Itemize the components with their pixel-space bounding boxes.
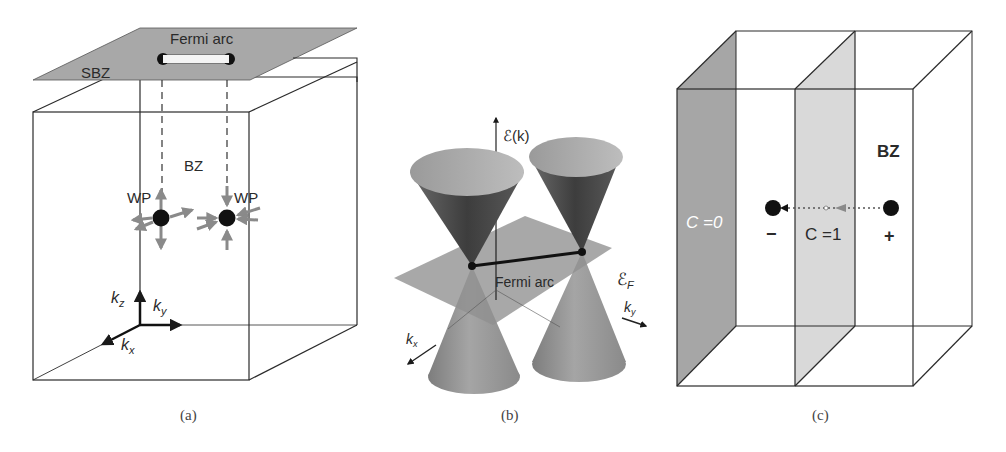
flux-midpoint xyxy=(824,206,828,210)
fermi-energy-label: ℰF xyxy=(617,270,635,291)
chern-one-label: C =1 xyxy=(805,225,841,244)
figure-canvas: Fermi arc SBZ BZ WP WP kz ky kx (a) xyxy=(0,0,1006,452)
energy-axis-label: ℰ(k) xyxy=(503,127,530,144)
caption-a: (a) xyxy=(180,407,197,424)
kx-label-b: kx xyxy=(406,331,418,349)
weyl-node-left xyxy=(468,262,476,270)
wp-right-label: WP xyxy=(234,189,258,206)
ky-label-b: ky xyxy=(624,299,636,317)
weyl-point-positive xyxy=(883,200,899,216)
positive-chirality-label: + xyxy=(884,226,895,246)
panel-c: BZ C =0 C =1 − + (c) xyxy=(677,31,972,424)
weyl-node-right xyxy=(578,248,586,256)
bz-label: BZ xyxy=(184,157,203,174)
bz-cube xyxy=(33,60,357,380)
kz-label: kz xyxy=(111,289,125,309)
negative-chirality-label: − xyxy=(766,224,777,244)
panel-b: ℰ(k) ℰF Fermi arc kx ky (b) xyxy=(394,118,646,424)
caption-b: (b) xyxy=(501,407,519,424)
panel-a: Fermi arc SBZ BZ WP WP kz ky kx (a) xyxy=(33,28,357,424)
chern-zero-label: C =0 xyxy=(686,213,723,232)
ky-axis xyxy=(622,318,646,326)
fermi-arc-label: Fermi arc xyxy=(170,30,234,47)
wp-left-label: WP xyxy=(127,189,151,206)
kx-label: kx xyxy=(121,336,135,356)
sbz-label: SBZ xyxy=(81,64,110,81)
fermi-arc-label-b: Fermi arc xyxy=(495,274,554,290)
flux-arrow-end xyxy=(780,204,788,212)
fermi-arc-segment xyxy=(157,53,235,65)
slab-chern-zero xyxy=(677,31,736,386)
caption-c: (c) xyxy=(812,407,829,424)
bz-label-c: BZ xyxy=(877,142,900,161)
weyl-point-negative xyxy=(765,200,781,216)
projection-lines xyxy=(162,80,227,196)
ky-label: ky xyxy=(153,297,168,317)
